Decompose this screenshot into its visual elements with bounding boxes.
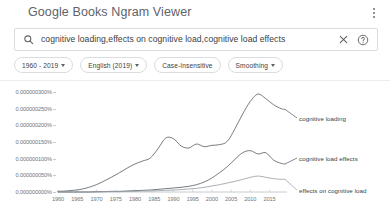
- chip-corpus-label: English (2019): [88, 62, 132, 69]
- chip-corpus[interactable]: English (2019): [80, 57, 147, 73]
- chart-line-2: [58, 176, 285, 192]
- chart-line-1: [58, 151, 285, 192]
- chart-plot-area: [0, 82, 390, 215]
- chip-case-insensitive-label: Case-Insensitive: [162, 62, 212, 69]
- series-leader-2: [285, 179, 297, 190]
- chevron-down-icon: [135, 64, 139, 67]
- search-icon: [23, 34, 34, 45]
- chip-smoothing-label: Smoothing: [236, 62, 268, 69]
- page-title: Google Books Ngram Viewer: [28, 5, 191, 19]
- series-leader-1: [285, 158, 297, 164]
- ngram-chart: 0.000000000%0.000000050%0.000000100%0.00…: [0, 82, 390, 215]
- series-leader-0: [285, 109, 297, 118]
- chart-line-0: [58, 94, 285, 191]
- search-input[interactable]: cognitive loading,effects on cognitive l…: [41, 33, 341, 46]
- chip-year-range[interactable]: 1960 - 2019: [14, 57, 73, 73]
- chip-case-insensitive[interactable]: Case-Insensitive: [154, 57, 220, 73]
- kebab-menu-icon[interactable]: [367, 5, 381, 21]
- chevron-down-icon: [61, 64, 65, 67]
- chevron-down-icon: [271, 64, 275, 67]
- app-header: Google Books Ngram Viewer: [0, 0, 390, 26]
- chip-smoothing[interactable]: Smoothing: [228, 57, 283, 73]
- header-divider: [0, 80, 390, 81]
- close-icon[interactable]: [338, 34, 349, 45]
- search-bar[interactable]: cognitive loading,effects on cognitive l…: [14, 28, 378, 51]
- filter-chip-row: 1960 - 2019 English (2019) Case-Insensit…: [14, 57, 283, 73]
- ngram-viewer-page: Google Books Ngram Viewer cognitive load…: [0, 0, 390, 215]
- help-circle-icon[interactable]: [357, 34, 369, 46]
- chip-year-range-label: 1960 - 2019: [22, 62, 58, 69]
